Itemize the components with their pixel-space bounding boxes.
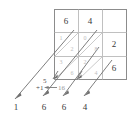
carry-increment-label: +1 [36, 85, 43, 92]
result-digit-2: 6 [59, 103, 69, 112]
right-factor-digit-0: 2 [107, 40, 121, 49]
right-factor-digit-1: 6 [107, 64, 121, 73]
lattice-cell-r2c0-lower: 6 [68, 70, 76, 76]
top-factor-digit-0: 6 [59, 17, 73, 26]
carry-sum-label: 5 [43, 78, 47, 85]
top-factor-digit-1: 4 [83, 17, 97, 26]
lattice-cell-r1c0-upper: 1 [57, 35, 65, 41]
collector-arrow-mid [77, 71, 82, 79]
result-digit-3: 4 [80, 103, 90, 112]
lattice-multiplication-figure: 6 4 2 6 1 2 0 8 3 6 2 4 5 +1 16 1 6 6 4 [0, 0, 135, 116]
lattice-cell-r2c1-upper: 2 [81, 59, 89, 65]
lattice-cell-r2c1-lower: 4 [92, 70, 100, 76]
sum-arrow-1 [15, 30, 74, 99]
lattice-cell-r1c1-lower: 8 [92, 46, 100, 52]
lattice-cell-r1c0-lower: 2 [68, 46, 76, 52]
result-digit-1: 6 [39, 103, 49, 112]
result-digit-0: 1 [11, 103, 21, 112]
collector-arrow-left [53, 71, 58, 79]
lattice-cell-r1c1-upper: 0 [81, 35, 89, 41]
carry-source-label: 16 [58, 85, 65, 92]
lattice-cell-r2c0-upper: 3 [57, 59, 65, 65]
